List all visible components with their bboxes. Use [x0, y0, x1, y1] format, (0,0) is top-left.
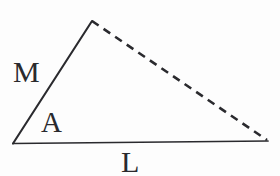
triangle-drawing — [0, 0, 280, 176]
geometry-figure: M A L — [0, 0, 280, 176]
side-length-label-m: M — [13, 57, 40, 87]
angle-label-a: A — [41, 108, 62, 137]
triangle-base-l-line — [13, 141, 268, 144]
side-length-label-l: L — [121, 147, 139, 176]
triangle-hypotenuse-dashed-line — [92, 21, 267, 140]
